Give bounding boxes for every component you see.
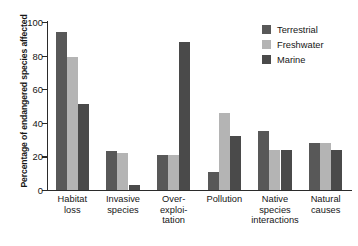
y-axis-tick-label: 20 [33,151,43,162]
x-axis-label-line: Natural [300,194,351,205]
y-axis-title: Percentage of endangered species affecte… [19,3,29,199]
x-axis-label-line: Invasive [98,194,149,205]
bar-group [56,22,90,190]
bar [331,150,342,190]
x-axis-label-line: species [250,205,301,216]
x-axis-label-line: Over- [148,194,199,205]
bar-group [157,22,191,190]
legend-item-label: Freshwater [277,40,324,50]
x-axis-label: Over-exploi-tation [148,194,199,226]
bar [168,155,179,190]
y-axis-tick-label: 100 [27,17,43,28]
bar [281,150,292,190]
legend-item-label: Marine [277,55,305,65]
x-axis-label-line: loss [47,205,98,216]
x-axis-label-line: species [98,205,149,216]
bar-group [208,22,242,190]
x-axis-label: Invasivespecies [98,194,149,215]
x-axis-label-line: interactions [250,215,301,226]
legend-swatch-icon [262,25,271,34]
legend-item[interactable]: Marine [262,52,324,67]
bar [269,150,280,190]
y-axis-tick-label: 60 [33,84,43,95]
bar [106,151,117,190]
bar-chart: Percentage of endangered species affecte… [0,0,358,246]
bar [78,104,89,190]
y-axis-tick-label: 0 [38,185,43,196]
x-axis-label-line: causes [300,205,351,216]
legend-swatch-icon [262,55,271,64]
x-axis-label-line: Pollution [199,194,250,205]
x-axis-label: Naturalcauses [300,194,351,215]
x-axis-label-line: exploi- [148,205,199,216]
bar [208,172,219,190]
y-axis-tick-label: 80 [33,50,43,61]
y-axis-tick-label: 40 [33,117,43,128]
bar [309,143,320,190]
bar [67,57,78,190]
legend-item-label: Terrestrial [277,25,318,35]
x-axis-label-line: Native [250,194,301,205]
bar [117,153,128,190]
bar [230,136,241,190]
x-axis-label: Nativespeciesinteractions [250,194,301,226]
bar-group [106,22,140,190]
bar [258,131,269,190]
legend: TerrestrialFreshwaterMarine [262,22,324,67]
bar [219,113,230,190]
x-axis-label: Pollution [199,194,250,205]
bar [320,143,331,190]
x-axis-label-line: tation [148,215,199,226]
x-axis-label: Habitatloss [47,194,98,215]
legend-item[interactable]: Freshwater [262,37,324,52]
bar [157,155,168,190]
bar [129,185,140,190]
legend-item[interactable]: Terrestrial [262,22,324,37]
x-axis-line [47,190,352,191]
bar [179,42,190,190]
legend-swatch-icon [262,40,271,49]
bar [56,32,67,190]
x-axis-label-line: Habitat [47,194,98,205]
